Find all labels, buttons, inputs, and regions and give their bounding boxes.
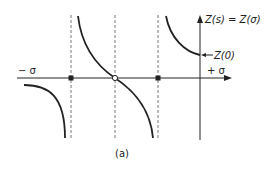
z0-arrow-icon: [201, 53, 206, 57]
sigma-axis-arrow-icon: [224, 75, 232, 81]
z0-label: Z(0): [213, 50, 235, 61]
reactance-diagram: − σ + σ Z(s) = Z(σ) Z(0) (a): [0, 0, 265, 170]
pos-sigma-label: + σ: [207, 65, 226, 76]
pole-marker-right: [156, 76, 161, 81]
neg-sigma-label: − σ: [18, 65, 37, 76]
figure-caption: (a): [115, 148, 129, 159]
curve-right-branch: [166, 16, 200, 55]
zero-marker: [112, 75, 117, 80]
z-axis-arrow-icon: [197, 15, 203, 23]
pole-marker-left: [69, 76, 74, 81]
curve-left-branch: [24, 85, 65, 138]
z-axis-label: Z(s) = Z(σ): [204, 14, 261, 25]
